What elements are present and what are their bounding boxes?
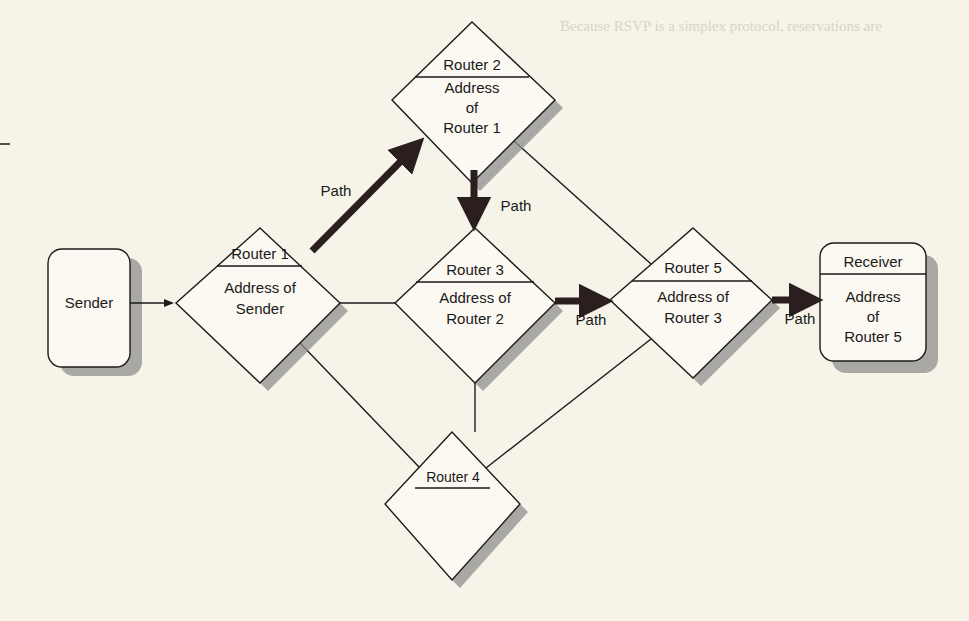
path-label-r2-r3: Path [501,197,532,214]
router4-title: Router 4 [426,469,480,485]
path-label-r5-receiver: Path [785,310,816,327]
router5-address-line2: Router 3 [664,309,722,326]
rsvp-path-diagram: Sender Router 1 Address of Sender Router… [0,0,969,621]
router1-address-line1: Address of [224,279,297,296]
router1-title: Router 1 [231,245,289,262]
path-label-r1-r2: Path [321,182,352,199]
receiver-address-line3: Router 5 [844,328,902,345]
sender-label: Sender [65,294,113,311]
router2-title: Router 2 [443,56,501,73]
router2-address-line1: Address [444,79,499,96]
router5-address-line1: Address of [657,288,730,305]
router2-address-line2: of [466,99,479,116]
router2-address-line3: Router 1 [443,119,501,136]
receiver-title: Receiver [843,253,902,270]
path-label-r3-r5: Path [576,311,607,328]
router3-address-line2: Router 2 [446,310,504,327]
receiver-node: Receiver Address of Router 5 [820,243,938,373]
router2-node: Router 2 Address of Router 1 [392,22,563,191]
path-arrow-router1-to-router2 [312,150,412,251]
router1-address-line2: Sender [236,300,284,317]
link-router1-router4 [300,343,420,468]
receiver-address-line1: Address [845,288,900,305]
router5-node: Router 5 Address of Router 3 [610,228,780,386]
link-router2-router5 [514,141,651,264]
sender-node: Sender [48,249,142,376]
router3-node: Router 3 Address of Router 2 [395,228,563,391]
router4-node: Router 4 [385,432,528,588]
receiver-address-line2: of [867,308,880,325]
router5-title: Router 5 [664,259,722,276]
router3-address-line1: Address of [439,289,512,306]
router3-title: Router 3 [446,261,504,278]
